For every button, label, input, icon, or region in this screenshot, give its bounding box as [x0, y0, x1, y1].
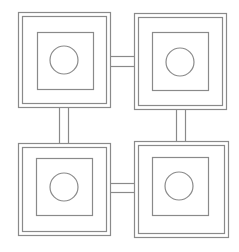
core-square	[153, 33, 209, 91]
circle-node	[50, 173, 78, 201]
circle-node	[166, 48, 194, 76]
outer-frame	[19, 13, 111, 108]
core-square	[38, 33, 94, 90]
inner-frame	[139, 18, 223, 106]
module-top-right	[135, 14, 227, 110]
circle-node	[165, 172, 193, 200]
inner-frame	[139, 146, 225, 234]
diagram-canvas	[0, 0, 239, 252]
connector-top-horizontal	[110, 57, 134, 67]
connector-left-vertical	[60, 107, 69, 143]
module-bottom-right	[135, 142, 229, 238]
connector-bottom-horizontal	[110, 184, 134, 193]
circle-node	[50, 46, 78, 74]
inner-frame	[23, 148, 107, 232]
connector-right-vertical	[177, 109, 186, 141]
module-top-left	[19, 13, 111, 108]
modules-group	[19, 13, 229, 238]
outer-frame	[19, 144, 111, 236]
connectors-group	[60, 57, 186, 193]
core-square	[153, 158, 209, 216]
core-square	[37, 159, 93, 216]
module-bottom-left	[19, 144, 111, 236]
outer-frame	[135, 142, 229, 238]
outer-frame	[135, 14, 227, 110]
